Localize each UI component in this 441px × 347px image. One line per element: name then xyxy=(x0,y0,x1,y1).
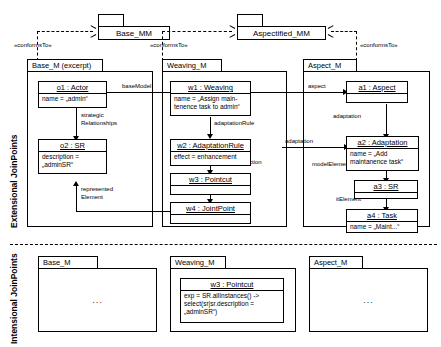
object-name: o1 : Actor xyxy=(39,82,106,94)
diagram-canvas: Extensional JoinPoints Intensional JoinP… xyxy=(0,0,441,347)
link-strategic-label-2: Relationships xyxy=(81,120,117,127)
object-attribute: „adminSR“ xyxy=(42,161,103,169)
object-attributes xyxy=(171,186,250,195)
link-represented-label-1: represented xyxy=(81,186,113,193)
object-name: w4 : JointPoint xyxy=(171,203,250,215)
object-attribute: „adminSR“) xyxy=(184,308,280,316)
object-name: w3 : Pointcut xyxy=(181,279,283,291)
open-arrowhead-icon xyxy=(229,28,237,35)
object-name: a2 : Adaptation xyxy=(347,137,418,149)
package-content-ellipsis: ... xyxy=(363,295,374,305)
link-represented-horizontal xyxy=(76,211,170,212)
section-label-intensional: Intensional JoinPoints xyxy=(9,253,19,344)
link-represented-vertical xyxy=(76,186,77,212)
link-strategic-line xyxy=(76,108,77,138)
package-weaving-m-intensional-label: Weaving_M xyxy=(175,258,214,267)
object-attribute: maintanence task“ xyxy=(350,158,415,166)
object-name: w3 : Pointcut xyxy=(171,174,250,186)
section-divider xyxy=(10,244,437,245)
object-attribute: exp = SR.allInstances() -> xyxy=(184,292,280,300)
object-attributes xyxy=(347,94,407,103)
object-attribute: select(sr|sr.description = xyxy=(184,300,280,308)
object-attribute: effect = enhancement xyxy=(174,153,247,161)
link-aspect-label: aspect xyxy=(308,83,326,90)
link-adaptation-line xyxy=(386,104,387,136)
object-attribute: name = „admin“ xyxy=(42,95,103,103)
object-name: w1 : Weaving xyxy=(171,82,250,94)
link-represented-label-2: Element xyxy=(81,194,103,201)
object-attribute: name = „Maint...“ xyxy=(350,223,414,231)
link-aspect-line xyxy=(251,92,344,93)
object-attributes: name = „admin“ xyxy=(39,94,106,104)
object-a2-adaptation: a2 : Adaptation name = „Add maintanence … xyxy=(346,136,419,171)
object-w2-adaptationrule: w2 : AdaptationRule effect = enhancement xyxy=(170,139,251,166)
package-aspect-m-intensional-label: Aspect_M xyxy=(314,258,347,267)
open-arrowhead-icon xyxy=(90,28,98,35)
conforms-label-base: «conformsTo» xyxy=(14,42,52,49)
object-attributes: effect = enhancement xyxy=(171,152,250,162)
package-base-m-intensional-label: Base_M xyxy=(43,258,71,267)
object-o2-sr: o2 : SR description = „adminSR“ xyxy=(38,139,107,174)
object-attributes xyxy=(171,215,250,224)
object-w1-weaving: w1 : Weaving name = „Assign main- tenenc… xyxy=(170,81,251,116)
object-attribute: name = „Add xyxy=(350,150,415,158)
object-attributes: name = „Assign main- tenence task to adm… xyxy=(171,94,250,112)
package-aspectified-mm-label: Aspectified_MM xyxy=(237,26,326,40)
object-a3-sr: a3 : SR xyxy=(354,180,418,199)
object-name: o2 : SR xyxy=(39,140,106,152)
package-base-m-intensional: Base_M ... xyxy=(38,256,157,332)
object-a4-task: a4 : Task name = „Maint...“ xyxy=(346,209,418,233)
package-base-mm-label: Base_MM xyxy=(98,26,170,40)
package-base-mm: Base_MM xyxy=(98,14,170,40)
link-adaptation-label: adaptation xyxy=(333,113,361,120)
package-aspectified-mm: Aspectified_MM xyxy=(237,14,326,40)
conforms-aspect-horizontal xyxy=(331,31,357,32)
link-adaptation-cross-line xyxy=(282,147,346,148)
section-label-extensional: Extensional JoinPoints xyxy=(9,134,19,228)
object-attribute: description = xyxy=(42,153,103,161)
link-baseModel-line xyxy=(107,92,170,93)
package-aspect-m-label: Aspect_M xyxy=(308,61,341,70)
object-name: a3 : SR xyxy=(355,181,417,193)
link-baseModel-label: baseModel xyxy=(122,83,151,90)
object-a1-aspect: a1 : Aspect xyxy=(346,81,408,103)
conforms-label-weaving: «conformsTo» xyxy=(150,42,188,49)
object-w3-pointcut: w3 : Pointcut xyxy=(170,173,251,195)
object-attributes xyxy=(355,193,417,200)
object-attributes: exp = SR.allInstances() -> select(sr|sr.… xyxy=(181,291,283,317)
object-attributes: name = „Add maintanence task“ xyxy=(347,149,418,167)
link-modelElement-label: modelElement xyxy=(312,161,350,168)
object-w3-pointcut-intensional: w3 : Pointcut exp = SR.allInstances() ->… xyxy=(180,278,284,323)
link-adaptationRule-label: adaptationRule xyxy=(214,120,254,127)
object-name: a4 : Task xyxy=(347,210,417,222)
link-strategic-label-1: strategic xyxy=(81,112,104,119)
conforms-aspect-vertical xyxy=(356,31,357,61)
conforms-base-horizontal xyxy=(37,31,93,32)
package-base-m-label: Base_M (excerpt) xyxy=(32,61,91,70)
package-weaving-m-label: Weaving_M xyxy=(167,61,206,70)
object-attribute: name = „Assign main- xyxy=(174,95,247,103)
package-aspect-m-intensional-body: ... xyxy=(309,268,428,332)
open-arrowhead-icon xyxy=(326,28,334,35)
object-attributes: description = „adminSR“ xyxy=(39,152,106,170)
arrowhead-icon xyxy=(73,181,79,186)
package-content-ellipsis: ... xyxy=(92,295,103,305)
object-o1-actor: o1 : Actor name = „admin“ xyxy=(38,81,107,108)
object-name: w2 : AdaptationRule xyxy=(171,140,250,152)
object-w4-jointpoint: w4 : JointPoint xyxy=(170,202,251,224)
object-attribute: tenence task to admin“ xyxy=(174,103,247,111)
object-name: a1 : Aspect xyxy=(347,82,407,94)
package-aspect-m-intensional: Aspect_M ... xyxy=(309,256,428,332)
conforms-label-aspect: «conformsTo» xyxy=(360,42,398,49)
link-adaptation-cross-label: adaptation xyxy=(285,138,313,145)
package-base-m-intensional-body: ... xyxy=(38,268,157,332)
object-attributes: name = „Maint...“ xyxy=(347,222,417,232)
conforms-weaving-horizontal xyxy=(162,31,232,32)
